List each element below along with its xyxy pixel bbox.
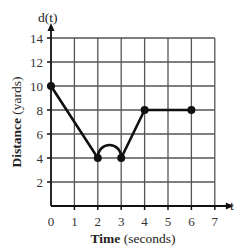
- distance-time-chart: 012345672468101214 d(t) t Time (seconds)…: [0, 0, 243, 252]
- y-tick-label: 14: [30, 31, 44, 46]
- data-point-marker: [141, 106, 149, 114]
- x-tick-label: 5: [165, 214, 172, 229]
- x-tick-label: 1: [71, 214, 78, 229]
- x-axis-title-bold: Time: [91, 231, 121, 246]
- x-tick-label: 2: [95, 214, 102, 229]
- x-tick-label: 6: [188, 214, 195, 229]
- y-tick-label: 2: [37, 175, 44, 190]
- data-point-marker: [94, 154, 102, 162]
- x-axis-title-rest: (seconds): [120, 231, 175, 246]
- x-tick-label: 3: [118, 214, 125, 229]
- data-point-marker: [117, 154, 125, 162]
- x-axis-title: Time (seconds): [91, 231, 176, 246]
- x-tick-label: 4: [141, 214, 148, 229]
- y-axis-title-rest: (yards): [9, 76, 24, 118]
- data-point-marker: [47, 82, 55, 90]
- y-axis-name: d(t): [38, 10, 58, 25]
- x-tick-label: 7: [212, 214, 219, 229]
- data-point-marker: [187, 106, 195, 114]
- y-tick-label: 6: [37, 127, 44, 142]
- y-axis-title-bold: Distance: [9, 118, 24, 168]
- y-tick-label: 12: [30, 55, 43, 70]
- x-axis-name: t: [230, 198, 234, 213]
- y-tick-label: 4: [37, 151, 44, 166]
- series-arc-segment: [98, 145, 121, 158]
- x-tick-label: 0: [48, 214, 55, 229]
- y-axis-title: Distance (yards): [9, 76, 24, 167]
- tick-labels: 012345672468101214: [30, 31, 219, 230]
- y-tick-label: 8: [37, 103, 44, 118]
- y-tick-label: 10: [30, 79, 43, 94]
